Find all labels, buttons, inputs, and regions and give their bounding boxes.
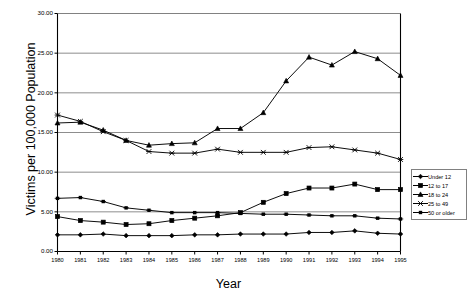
marker-square (284, 192, 288, 196)
legend-label: Under 12 (428, 174, 451, 180)
marker-diamond (215, 233, 220, 238)
marker-square (147, 222, 151, 226)
marker-x (146, 149, 152, 154)
y-tick-label-text: 15.00 (22, 129, 53, 135)
marker-square (101, 220, 105, 224)
marker-asterisk (123, 206, 129, 209)
x-tick-label: 1992 (320, 257, 344, 263)
marker-square (376, 188, 380, 192)
series-line (58, 231, 401, 236)
series-line (58, 52, 401, 146)
series-25-to-49 (55, 113, 404, 162)
x-tick-label: 1985 (160, 257, 184, 263)
x-tick-label: 1989 (251, 257, 275, 263)
legend-label: 25 to 49 (428, 201, 448, 207)
marker-diamond (192, 233, 197, 238)
x-tick-label: 1991 (297, 257, 321, 263)
marker-triangle (352, 49, 357, 54)
marker-asterisk (352, 214, 358, 217)
marker-x (169, 151, 175, 156)
marker-x (215, 147, 221, 152)
marker-diamond (124, 233, 129, 238)
legend-label: 12 to 17 (428, 183, 448, 189)
legend-item-25-to-49: 25 to 49 (413, 199, 464, 208)
axes (55, 14, 401, 255)
marker-x (261, 150, 267, 155)
x-tick-label: 1993 (343, 257, 367, 263)
marker-diamond (284, 232, 289, 237)
legend-item-under-12: Under 12 (413, 172, 464, 181)
legend: Under 1212 to 1718 to 2425 to 4950 or ol… (411, 169, 467, 220)
marker-square (56, 215, 60, 219)
marker-square (399, 188, 403, 192)
marker-x (329, 144, 335, 149)
y-tick-label-text: 20.00 (22, 90, 53, 96)
marker-x (238, 150, 244, 155)
marker-diamond (147, 233, 152, 238)
x-tick-label: 1995 (389, 257, 413, 263)
legend-marker-square-icon (413, 181, 428, 190)
marker-diamond (261, 232, 266, 237)
marker-square (261, 200, 265, 204)
legend-label: 50 or older (428, 210, 455, 216)
marker-square (193, 216, 197, 220)
legend-item-12-to-17: 12 to 17 (413, 181, 464, 190)
marker-square (330, 186, 334, 190)
marker-asterisk (418, 211, 424, 214)
y-tick-label-text: 0.00 (22, 248, 53, 254)
legend-marker-diamond-icon (413, 172, 428, 181)
legend-marker-asterisk-icon (413, 208, 428, 217)
marker-asterisk (261, 213, 267, 216)
legend-item-18-to-24: 18 to 24 (413, 190, 464, 199)
series-12-to-17 (56, 182, 403, 226)
marker-asterisk (78, 196, 84, 199)
marker-diamond (101, 232, 106, 237)
marker-square (78, 219, 82, 223)
marker-asterisk (329, 214, 335, 217)
y-tick-label-text: 30.00 (22, 10, 53, 16)
marker-x (418, 201, 424, 206)
x-tick-label: 1983 (114, 257, 138, 263)
x-tick-label: 1988 (228, 257, 252, 263)
marker-square (307, 186, 311, 190)
x-tick-label: 1986 (183, 257, 207, 263)
marker-x (375, 151, 381, 156)
marker-asterisk (283, 213, 289, 216)
x-tick-label: 1984 (137, 257, 161, 263)
marker-asterisk (306, 213, 312, 216)
legend-item-50-or-older: 50 or older (413, 208, 464, 217)
x-tick-label: 1987 (206, 257, 230, 263)
marker-triangle (398, 73, 403, 78)
y-tick-label-text: 10.00 (22, 169, 53, 175)
marker-diamond (170, 233, 175, 238)
series-line (58, 184, 401, 224)
marker-diamond (55, 233, 60, 238)
marker-square (353, 182, 357, 186)
marker-x (306, 145, 312, 150)
marker-asterisk (398, 217, 404, 220)
marker-square (170, 219, 174, 223)
marker-square (216, 214, 220, 218)
marker-diamond (238, 232, 243, 237)
x-tick-label: 1981 (68, 257, 92, 263)
marker-asterisk (375, 216, 381, 219)
marker-x (352, 148, 358, 153)
marker-diamond (398, 232, 403, 237)
legend-marker-triangle-icon (413, 190, 428, 199)
marker-diamond (418, 174, 423, 179)
marker-square (124, 223, 128, 227)
marker-asterisk (100, 200, 106, 203)
marker-asterisk (55, 197, 61, 200)
legend-label: 18 to 24 (428, 192, 448, 198)
y-tick-label-text: 5.00 (22, 209, 53, 215)
marker-diamond (352, 229, 357, 234)
series-line (58, 198, 401, 219)
series-under-12 (55, 229, 403, 238)
series-line (58, 115, 401, 159)
series-50-or-older (55, 196, 404, 221)
x-tick-label: 1980 (46, 257, 70, 263)
marker-x (283, 150, 289, 155)
legend-marker-x-icon (413, 199, 428, 208)
x-tick-label: 1990 (274, 257, 298, 263)
x-tick-label: 1982 (91, 257, 115, 263)
